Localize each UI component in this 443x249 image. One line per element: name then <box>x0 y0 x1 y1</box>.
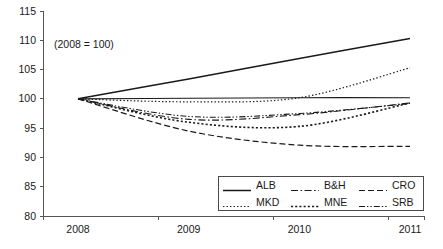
legend-label: ALB <box>256 179 276 191</box>
series-line-alb <box>78 39 410 99</box>
y-axis-tick-115: 115 <box>8 6 36 17</box>
legend-swatch-mkd-icon <box>222 197 252 206</box>
series-line-mne <box>78 99 410 128</box>
legend-label: MKD <box>256 196 279 208</box>
series-line-cro <box>78 99 410 147</box>
chart-legend: ALBB&HCROMKDMNESRB <box>218 176 424 211</box>
baseline-annotation: (2008 = 100) <box>54 38 114 50</box>
legend-item-mkd[interactable]: MKD <box>219 196 287 208</box>
y-axis-tick-90: 90 <box>8 152 36 163</box>
legend-label: B&H <box>324 179 346 191</box>
legend-swatch-bandh-icon <box>290 181 320 190</box>
series-line-baseline <box>78 98 410 99</box>
legend-label: MNE <box>324 196 347 208</box>
x-axis-tick-2011: 2011 <box>387 224 433 235</box>
y-axis-tick-80: 80 <box>8 211 36 222</box>
y-axis-tick-100: 100 <box>8 93 36 104</box>
legend-swatch-mne-icon <box>290 197 320 206</box>
legend-label: CRO <box>392 179 415 191</box>
legend-item-bandh[interactable]: B&H <box>287 179 355 191</box>
legend-item-cro[interactable]: CRO <box>355 179 423 191</box>
y-axis-tick-105: 105 <box>8 64 36 75</box>
y-axis-tick-85: 85 <box>8 181 36 192</box>
x-axis-tick-2009: 2009 <box>166 224 212 235</box>
y-axis-tick-95: 95 <box>8 123 36 134</box>
legend-swatch-alb-icon <box>222 181 252 190</box>
legend-label: SRB <box>392 196 414 208</box>
legend-swatch-cro-icon <box>358 181 388 190</box>
legend-swatch-srb-icon <box>358 197 388 206</box>
legend-item-srb[interactable]: SRB <box>355 196 423 208</box>
series-line-mkd <box>78 68 410 102</box>
x-axis-tick-2010: 2010 <box>276 224 322 235</box>
legend-item-alb[interactable]: ALB <box>219 179 287 191</box>
line-chart: 11511010510095908580 2008200920102011 (2… <box>0 0 443 249</box>
y-axis-tick-110: 110 <box>8 35 36 46</box>
x-axis-tick-2008: 2008 <box>55 224 101 235</box>
legend-item-mne[interactable]: MNE <box>287 196 355 208</box>
